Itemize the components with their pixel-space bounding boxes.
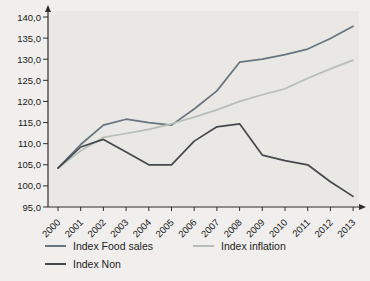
svg-text:2005: 2005 [153, 217, 176, 238]
svg-text:105,0: 105,0 [17, 159, 41, 170]
svg-text:2011: 2011 [290, 217, 312, 238]
svg-text:2001: 2001 [62, 217, 85, 238]
svg-text:125,0: 125,0 [17, 75, 41, 86]
legend-item-food-sales: Index Food sales [45, 240, 193, 252]
legend-line-swatch-inflation [193, 245, 214, 247]
svg-text:135,0: 135,0 [17, 33, 41, 44]
chart-plot-area: 95,0100,0105,0110,0115,0120,0125,0130,01… [0, 0, 370, 238]
legend-row-1: Index Food sales Index inflation [45, 240, 345, 252]
svg-text:95,0: 95,0 [23, 202, 42, 213]
chart-legend: Index Food sales Index inflation Index N… [45, 240, 345, 276]
svg-text:2006: 2006 [176, 217, 199, 238]
svg-text:2009: 2009 [244, 217, 267, 238]
legend-label-food-sales: Index Food sales [73, 240, 153, 252]
svg-text:120,0: 120,0 [17, 96, 41, 107]
legend-row-2: Index Non [45, 258, 345, 270]
svg-text:2000: 2000 [40, 217, 63, 238]
svg-text:2008: 2008 [221, 217, 244, 238]
legend-label-non: Index Non [73, 258, 121, 270]
legend-label-inflation: Index inflation [221, 240, 286, 252]
legend-line-swatch-non [45, 263, 66, 265]
svg-text:100,0: 100,0 [17, 180, 41, 191]
legend-line-swatch-food-sales [45, 245, 66, 247]
svg-text:140,0: 140,0 [17, 12, 41, 23]
svg-text:2007: 2007 [199, 217, 222, 238]
legend-item-inflation: Index inflation [193, 240, 286, 252]
svg-text:110,0: 110,0 [18, 138, 41, 149]
svg-text:130,0: 130,0 [17, 54, 41, 65]
svg-text:2013: 2013 [335, 217, 358, 238]
svg-text:115,0: 115,0 [18, 117, 41, 128]
svg-text:2004: 2004 [130, 217, 153, 238]
line-chart-figure: 95,0100,0105,0110,0115,0120,0125,0130,01… [0, 0, 370, 281]
svg-text:2012: 2012 [312, 217, 335, 238]
svg-text:2002: 2002 [85, 217, 108, 238]
svg-text:2003: 2003 [108, 217, 131, 238]
svg-text:2010: 2010 [267, 217, 290, 238]
legend-item-non: Index Non [45, 258, 193, 270]
